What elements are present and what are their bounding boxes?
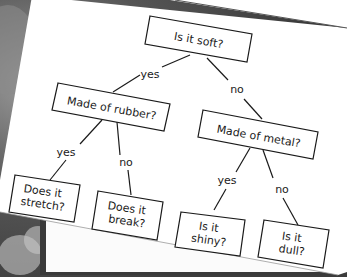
node-label-dull: Is it dull? — [278, 229, 307, 258]
edge-label-root-rubber: yes — [140, 68, 159, 81]
edge-label-metal-dull: no — [275, 183, 289, 196]
edge-label-rubber-break: no — [119, 156, 133, 169]
edge-label-root-metal: no — [230, 83, 244, 96]
edge-label-rubber-stretch: yes — [56, 146, 75, 159]
decision-tree-photo: Is it soft? Made of rubber? Made of meta… — [0, 0, 347, 277]
edge-label-metal-shiny: yes — [217, 174, 236, 187]
